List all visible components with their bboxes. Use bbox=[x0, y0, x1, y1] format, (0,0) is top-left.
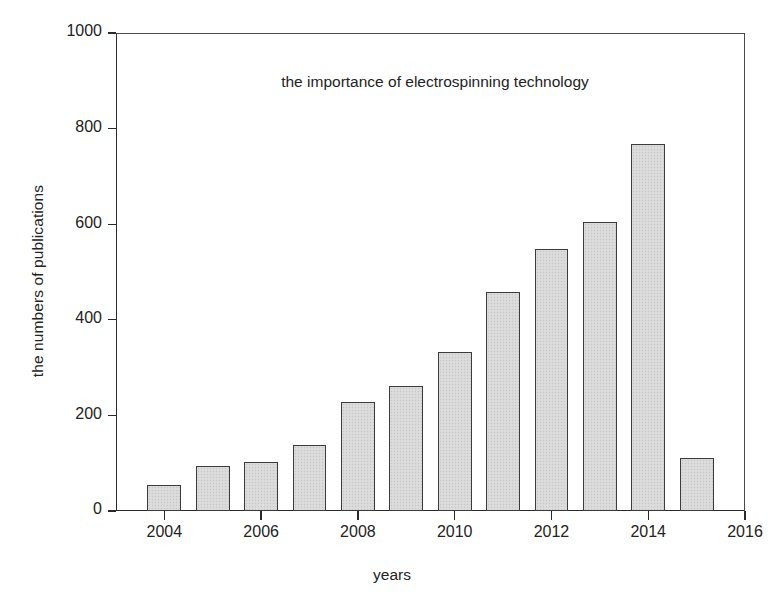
x-tick-label: 2014 bbox=[630, 523, 666, 541]
plot-right-border bbox=[744, 33, 745, 511]
x-tick-label: 2004 bbox=[147, 523, 183, 541]
bar-2009 bbox=[389, 386, 423, 511]
y-axis-line bbox=[116, 33, 117, 511]
bar-2011 bbox=[486, 292, 520, 511]
bar-2004 bbox=[147, 485, 181, 511]
x-tick: 2008 bbox=[357, 511, 358, 520]
y-tick: 0 bbox=[108, 510, 116, 511]
y-tick-label: 400 bbox=[75, 309, 102, 327]
x-tick-label: 2006 bbox=[243, 523, 279, 541]
x-tick-label: 2008 bbox=[340, 523, 376, 541]
y-tick-label: 200 bbox=[75, 405, 102, 423]
bar-2010 bbox=[438, 352, 472, 511]
x-tick-label: 2010 bbox=[437, 523, 473, 541]
bar-2014 bbox=[631, 144, 665, 511]
y-tick-label: 0 bbox=[93, 500, 102, 518]
x-tick: 2006 bbox=[260, 511, 261, 520]
bar-2013 bbox=[583, 222, 617, 511]
plot-area: 02004006008001000 2004200620082010201220… bbox=[116, 33, 745, 511]
bar-2012 bbox=[535, 249, 569, 511]
x-tick: 2014 bbox=[648, 511, 649, 520]
y-tick: 200 bbox=[108, 415, 116, 416]
y-tick-label: 800 bbox=[75, 118, 102, 136]
y-tick-label: 600 bbox=[75, 214, 102, 232]
x-tick: 2004 bbox=[164, 511, 165, 520]
x-tick: 2010 bbox=[454, 511, 455, 520]
y-axis-label: the numbers of publications bbox=[29, 131, 47, 431]
y-tick: 600 bbox=[108, 224, 116, 225]
chart-figure: the importance of electrospinning techno… bbox=[0, 0, 784, 603]
plot-top-border bbox=[116, 33, 745, 34]
x-axis-label: years bbox=[0, 566, 784, 584]
y-tick: 400 bbox=[108, 319, 116, 320]
bar-2015 bbox=[680, 458, 714, 511]
y-tick-label: 1000 bbox=[66, 22, 102, 40]
x-tick-label: 2016 bbox=[727, 523, 763, 541]
y-tick: 1000 bbox=[108, 32, 116, 33]
bar-2007 bbox=[293, 445, 327, 511]
bar-2008 bbox=[341, 402, 375, 511]
bar-2006 bbox=[244, 462, 278, 511]
x-tick: 2012 bbox=[551, 511, 552, 520]
x-tick: 2016 bbox=[744, 511, 745, 520]
y-tick: 800 bbox=[108, 128, 116, 129]
bar-2005 bbox=[196, 466, 230, 511]
x-tick-label: 2012 bbox=[534, 523, 570, 541]
